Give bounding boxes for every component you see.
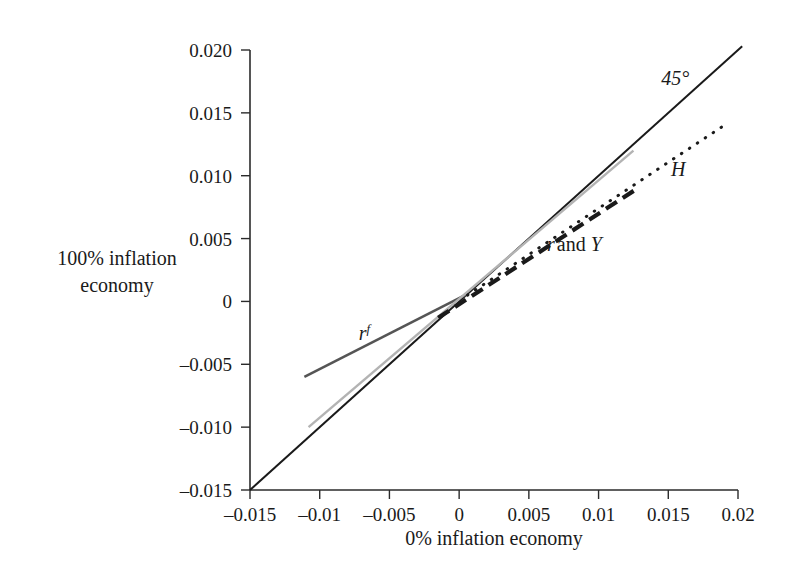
series-line-r-and-Y [438, 188, 637, 317]
series-layer [250, 46, 742, 490]
y-tick-label: –0.015 [179, 480, 232, 501]
x-axis-title: 0% inflation economy [405, 527, 583, 550]
y-axis-title-line2: economy [80, 274, 153, 297]
y-tick-label: 0.010 [189, 166, 232, 187]
x-tick-label: –0.01 [297, 504, 341, 525]
series-line-H [468, 125, 725, 295]
y-tick-label: 0.020 [189, 40, 232, 61]
series-annotation-r-superscript-f: rf [359, 321, 373, 344]
chart-svg: –0.015–0.010–0.00500.0050.0100.0150.020 … [0, 0, 793, 587]
y-tick-label: 0.015 [189, 103, 232, 124]
y-tick-label: –0.005 [179, 354, 232, 375]
chart-figure: –0.015–0.010–0.00500.0050.0100.0150.020 … [0, 0, 793, 587]
annotation-layer: 45°rfrandYH [359, 67, 690, 344]
x-tick-label: 0.01 [582, 504, 615, 525]
y-axis-title-line1: 100% inflation [57, 247, 176, 269]
y-tick-label: 0 [223, 291, 233, 312]
y-tick-label: –0.010 [179, 417, 232, 438]
x-tick-label: 0.005 [507, 504, 550, 525]
y-tick-label: 0.005 [189, 229, 232, 250]
x-tick-label: 0.015 [647, 504, 690, 525]
series-annotation-45-degree-line: 45° [661, 67, 689, 89]
series-annotation-H: H [670, 158, 687, 180]
x-tick-label: 0 [454, 504, 464, 525]
series-line-light-gray-line [309, 151, 634, 428]
x-tick-label: –0.015 [223, 504, 276, 525]
x-axis-ticks: –0.015–0.01–0.00500.0050.010.0150.02 [223, 490, 755, 525]
y-axis-ticks: –0.015–0.010–0.00500.0050.0100.0150.020 [179, 40, 250, 501]
x-tick-label: 0.02 [721, 504, 754, 525]
series-line-r-superscript-f [304, 294, 467, 377]
x-tick-label: –0.005 [362, 504, 415, 525]
